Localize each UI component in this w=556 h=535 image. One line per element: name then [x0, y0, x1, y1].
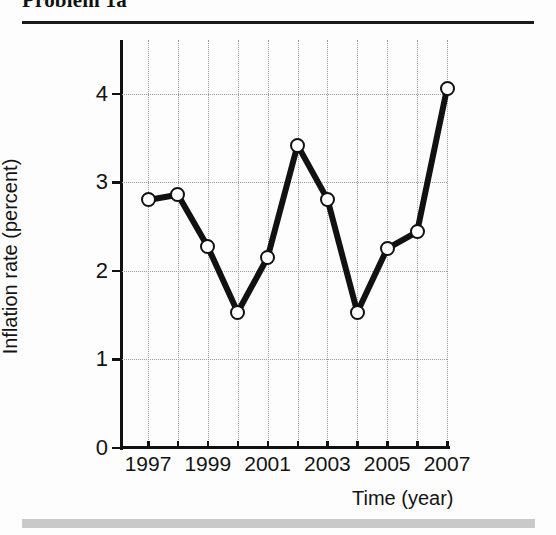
- data-point-marker: [380, 241, 395, 256]
- data-point-marker: [440, 81, 455, 96]
- footer-rule: [22, 519, 535, 528]
- data-point-marker: [350, 305, 365, 320]
- data-point-marker: [141, 192, 156, 207]
- data-point-marker: [290, 138, 305, 153]
- series-line: [0, 0, 556, 519]
- data-point-marker: [410, 224, 425, 239]
- inflation-rate-line-chart: 01234 199719992001200320052007 Inflation…: [0, 0, 556, 519]
- page-canvas: Problem 1a 01234 19971999200120032005200…: [0, 0, 556, 535]
- data-point-marker: [230, 305, 245, 320]
- data-point-marker: [320, 192, 335, 207]
- data-point-marker: [260, 250, 275, 265]
